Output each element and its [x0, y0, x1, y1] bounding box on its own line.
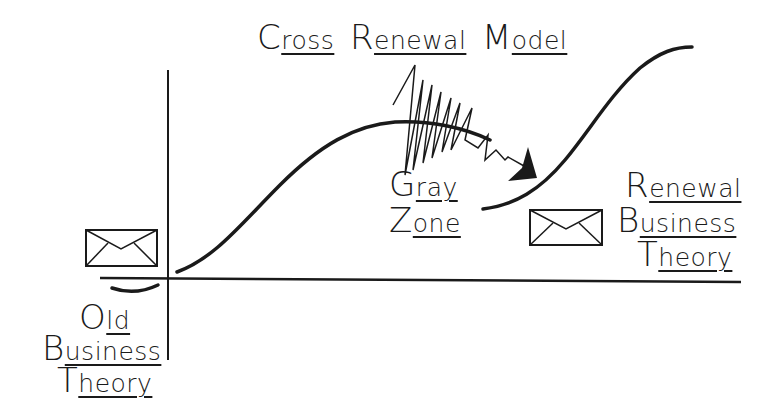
- renewal-theory-label-line3: Theory: [637, 237, 732, 271]
- gray-zone-label-line1: Gray: [389, 167, 458, 201]
- label-rest: one: [413, 209, 461, 238]
- label-rest: heory: [658, 243, 732, 272]
- label-cap: R: [625, 165, 649, 205]
- old-theory-label-line1: Old: [79, 300, 130, 334]
- renewal-theory-label-line2: Business: [617, 203, 736, 237]
- title-word: Renewal: [350, 34, 466, 53]
- label-rest: usiness: [65, 337, 162, 366]
- title-word: Cross: [257, 34, 334, 53]
- title-cap: R: [350, 17, 374, 57]
- gray-zone-zigzag: [393, 65, 524, 175]
- gray-zone-label-line2: Zone: [389, 203, 461, 237]
- title-word: Model: [482, 34, 567, 53]
- title-rest: odel: [512, 26, 568, 55]
- title-rest: ross: [281, 26, 334, 55]
- label-rest: ray: [416, 173, 458, 202]
- title-cap: M: [482, 17, 512, 57]
- title-rest: enewal: [374, 26, 466, 55]
- label-cap: G: [389, 164, 416, 204]
- label-rest: enewal: [649, 174, 741, 203]
- label-rest: heory: [78, 369, 152, 398]
- envelope-icon: [530, 210, 602, 245]
- envelope-icon: [86, 230, 157, 266]
- title-cap: C: [257, 17, 281, 57]
- old-curve-tail: [112, 285, 158, 291]
- x-axis: [100, 278, 741, 282]
- renewal-theory-label-line1: Renewal: [625, 168, 741, 202]
- label-cap: Z: [389, 200, 413, 240]
- arrow-head-icon: [508, 147, 537, 181]
- diagram-title: Cross Renewal Model: [257, 20, 577, 54]
- label-cap: T: [57, 360, 78, 400]
- old-theory-label-line3: Theory: [57, 363, 152, 397]
- label-cap: T: [637, 234, 658, 274]
